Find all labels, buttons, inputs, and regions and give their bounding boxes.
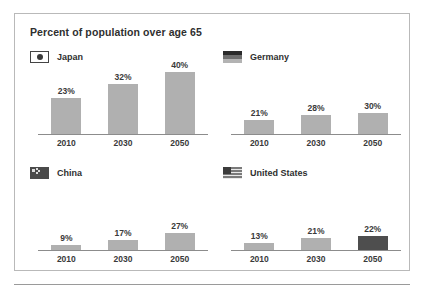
category-label: 2030 bbox=[288, 138, 345, 148]
bar-slot: 17% bbox=[95, 208, 152, 250]
legend-japan: Japan bbox=[30, 50, 83, 64]
panel-united-states: United States 13% 21% 22% bbox=[223, 166, 409, 270]
bar[interactable] bbox=[165, 233, 195, 250]
bar-slot: 30% bbox=[344, 88, 401, 134]
bar[interactable] bbox=[108, 84, 138, 134]
category-labels-china: 2010 2030 2050 bbox=[38, 254, 208, 264]
footer-divider bbox=[14, 284, 410, 285]
legend-united-states: United States bbox=[223, 166, 308, 180]
category-label: 2010 bbox=[231, 254, 288, 264]
bar-value: 17% bbox=[114, 228, 131, 238]
page-title: Percent of population over age 65 bbox=[30, 26, 202, 38]
axis-line bbox=[231, 250, 401, 251]
bar-slot: 22% bbox=[344, 208, 401, 250]
panel-japan: Japan 23% 32% 40% bbox=[30, 50, 216, 154]
bar[interactable] bbox=[165, 72, 195, 134]
axis-line bbox=[38, 134, 208, 135]
chart-frame: Percent of population over age 65 Japan … bbox=[14, 13, 410, 271]
category-label: 2050 bbox=[151, 254, 208, 264]
bar-value: 27% bbox=[171, 221, 188, 231]
us-flag-stripe bbox=[223, 176, 242, 178]
united-states-flag-icon bbox=[223, 167, 242, 179]
bar-group-germany: 21% 28% 30% bbox=[231, 88, 401, 134]
china-flag-star bbox=[36, 172, 38, 174]
category-label: 2010 bbox=[38, 254, 95, 264]
bar-slot: 21% bbox=[288, 208, 345, 250]
category-label: 2050 bbox=[344, 254, 401, 264]
bar-value: 21% bbox=[251, 108, 268, 118]
bar-value: 28% bbox=[307, 103, 324, 113]
country-label-china: China bbox=[57, 168, 82, 178]
panel-china: China 9% 17% 27% bbox=[30, 166, 216, 270]
category-labels-united-states: 2010 2030 2050 bbox=[231, 254, 401, 264]
china-flag-star bbox=[38, 170, 40, 172]
country-label-germany: Germany bbox=[250, 52, 289, 62]
legend-germany: Germany bbox=[223, 50, 289, 64]
category-label: 2010 bbox=[38, 138, 95, 148]
japan-flag-disc bbox=[37, 54, 43, 60]
bar-group-china: 9% 17% 27% bbox=[38, 208, 208, 250]
plot-germany: 21% 28% 30% 2010 2030 2050 bbox=[231, 72, 401, 152]
us-flag-canton bbox=[223, 167, 231, 174]
bar-value: 21% bbox=[307, 226, 324, 236]
bar[interactable] bbox=[358, 113, 388, 134]
china-flag-star bbox=[32, 169, 35, 172]
category-label: 2050 bbox=[151, 138, 208, 148]
panel-germany: Germany 21% 28% 30% bbox=[223, 50, 409, 154]
plot-china: 9% 17% 27% 2010 2030 2050 bbox=[38, 188, 208, 268]
category-label: 2010 bbox=[231, 138, 288, 148]
bar[interactable] bbox=[301, 115, 331, 135]
bar-value: 32% bbox=[114, 72, 131, 82]
bar-slot: 32% bbox=[95, 72, 152, 134]
bar-group-united-states: 13% 21% 22% bbox=[231, 208, 401, 250]
axis-line bbox=[38, 250, 208, 251]
category-labels-germany: 2010 2030 2050 bbox=[231, 138, 401, 148]
japan-flag-icon bbox=[30, 51, 49, 63]
axis-line bbox=[231, 134, 401, 135]
bar[interactable] bbox=[244, 120, 274, 134]
country-label-japan: Japan bbox=[57, 52, 83, 62]
bar-slot: 21% bbox=[231, 88, 288, 134]
bar[interactable] bbox=[301, 238, 331, 250]
bar-value: 23% bbox=[58, 86, 75, 96]
bar-value: 22% bbox=[364, 224, 381, 234]
bar-slot: 40% bbox=[151, 72, 208, 134]
bar-slot: 28% bbox=[288, 88, 345, 134]
bar-slot: 27% bbox=[151, 208, 208, 250]
category-label: 2030 bbox=[95, 138, 152, 148]
category-label: 2030 bbox=[95, 254, 152, 264]
category-label: 2050 bbox=[344, 138, 401, 148]
china-flag-icon bbox=[30, 167, 49, 179]
bar-value: 9% bbox=[60, 233, 72, 243]
legend-china: China bbox=[30, 166, 82, 180]
bar-highlighted[interactable] bbox=[358, 236, 388, 250]
category-labels-japan: 2010 2030 2050 bbox=[38, 138, 208, 148]
plot-united-states: 13% 21% 22% 2010 2030 2050 bbox=[231, 188, 401, 268]
germany-flag-stripe bbox=[223, 59, 242, 63]
country-label-united-states: United States bbox=[250, 168, 308, 178]
bar-value: 40% bbox=[171, 60, 188, 70]
bar[interactable] bbox=[51, 98, 81, 134]
plot-japan: 23% 32% 40% 2010 2030 2050 bbox=[38, 72, 208, 152]
bar-slot: 23% bbox=[38, 72, 95, 134]
bar[interactable] bbox=[108, 240, 138, 250]
category-label: 2030 bbox=[288, 254, 345, 264]
germany-flag-icon bbox=[223, 51, 242, 63]
bar-slot: 13% bbox=[231, 208, 288, 250]
bar-group-japan: 23% 32% 40% bbox=[38, 72, 208, 134]
chart-page: Percent of population over age 65 Japan … bbox=[0, 0, 426, 296]
bar-slot: 9% bbox=[38, 208, 95, 250]
bar-value: 13% bbox=[251, 231, 268, 241]
bar-value: 30% bbox=[364, 101, 381, 111]
bar[interactable] bbox=[244, 243, 274, 250]
